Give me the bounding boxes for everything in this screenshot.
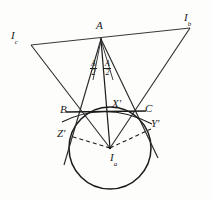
- label-excenter-b-subscript: b: [188, 20, 192, 28]
- label-vertex-b: B: [60, 104, 67, 115]
- half-angle-left-denominator: 2: [90, 69, 97, 77]
- geometry-canvas: [0, 0, 212, 200]
- label-tangency-z: Z': [57, 128, 65, 139]
- line-ic-to-ia: [31, 45, 110, 148]
- half-angle-right-numerator: A: [104, 60, 111, 68]
- point-ia-dot: [109, 147, 111, 149]
- label-tangency-x: X': [112, 98, 121, 109]
- geometry-figure: A B C X' Y' Z' Ia Ib Ic A 2 A 2: [0, 0, 212, 200]
- label-excenter-a-subscript: a: [114, 160, 118, 168]
- label-vertex-c: C: [145, 103, 152, 114]
- label-excenter-a: Ia: [110, 152, 117, 166]
- point-a-dot: [100, 38, 102, 40]
- label-half-angle-right: A 2: [104, 60, 111, 78]
- dashed-radius-ia-zp: [70, 136, 110, 148]
- label-excenter-c-subscript: c: [15, 38, 18, 46]
- label-vertex-a: A: [96, 20, 103, 31]
- label-excenter-b: Ib: [184, 12, 191, 26]
- label-tangency-y: Y': [151, 118, 159, 129]
- half-angle-left-numerator: A: [90, 60, 97, 68]
- side-ab-extended: [64, 39, 101, 165]
- label-excenter-c: Ic: [11, 30, 18, 44]
- half-angle-right-denominator: 2: [104, 69, 111, 77]
- line-ic-ib: [31, 28, 190, 45]
- label-half-angle-left: A 2: [90, 60, 97, 78]
